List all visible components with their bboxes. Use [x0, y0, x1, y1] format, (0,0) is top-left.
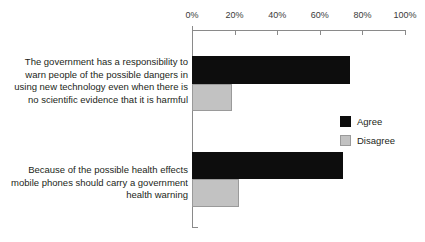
chart-legend: Agree Disagree [340, 113, 395, 151]
legend-swatch-agree-icon [340, 116, 351, 127]
bar-agree-group-0 [192, 56, 350, 84]
category-label-0-line-3: no scientific evidence that it is harmfu… [8, 94, 188, 107]
category-label-1-line-1: mobile phones should carry a government [8, 177, 188, 190]
x-tick-mark-100 [405, 30, 406, 35]
category-label-0-line-2: using new technology even when there is [8, 81, 188, 94]
category-label-1-line-2: health warning [8, 189, 188, 202]
legend-swatch-disagree-icon [340, 135, 351, 146]
bar-chart: 0% 20% 40% 60% 80% 100% The government h… [0, 0, 425, 242]
legend-item-agree: Agree [340, 113, 395, 129]
legend-label-agree: Agree [357, 116, 382, 127]
legend-item-disagree: Disagree [340, 132, 395, 148]
category-label-0: The government has a responsibility to w… [8, 56, 188, 106]
category-label-1-line-0: Because of the possible health effects [8, 164, 188, 177]
legend-label-disagree: Disagree [357, 135, 395, 146]
bar-disagree-group-1 [192, 179, 239, 207]
category-label-1: Because of the possible health effects m… [8, 164, 188, 202]
bar-agree-group-1 [192, 152, 343, 179]
category-label-0-line-0: The government has a responsibility to [8, 56, 188, 69]
category-label-0-line-1: warn people of the possible dangers in [8, 69, 188, 82]
bar-disagree-group-0 [192, 84, 232, 111]
